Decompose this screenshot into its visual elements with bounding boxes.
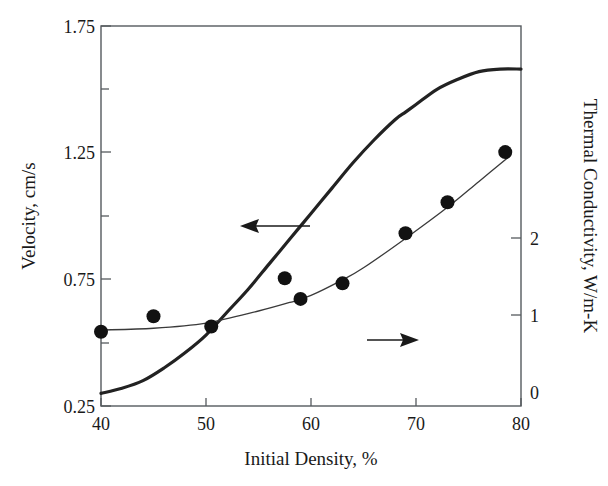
data-point xyxy=(278,271,292,285)
y2tick-label-1: 1 xyxy=(530,306,539,326)
left-axis-ticks xyxy=(101,26,111,406)
xtick-label-80: 80 xyxy=(512,414,530,434)
xtick-label-50: 50 xyxy=(197,414,215,434)
data-point xyxy=(498,145,512,159)
x-axis-tick-labels: 40 50 60 70 80 xyxy=(92,414,530,434)
y2tick-label-2: 2 xyxy=(530,229,539,249)
y2-axis-title: Thermal Conductivity, W/m-K xyxy=(580,99,601,334)
x-axis-title: Initial Density, % xyxy=(244,448,377,469)
y2tick-label-0: 0 xyxy=(530,383,539,403)
data-point xyxy=(94,325,108,339)
data-point xyxy=(399,226,413,240)
right-axis-ticks xyxy=(511,238,521,315)
series-layer xyxy=(94,69,521,393)
xtick-label-70: 70 xyxy=(407,414,425,434)
chart-figure: 1.75 1.25 0.75 0.25 Velocity, cm/s 2 1 0… xyxy=(0,0,608,486)
xtick-label-40: 40 xyxy=(92,414,110,434)
data-point xyxy=(204,320,218,334)
data-point xyxy=(336,276,350,290)
thermal-conductivity-curve xyxy=(101,156,511,330)
right-axis-tick-labels: 2 1 0 xyxy=(530,229,539,403)
ytick-label-1-75: 1.75 xyxy=(64,17,96,37)
data-point xyxy=(147,309,161,323)
left-axis-tick-labels: 1.75 1.25 0.75 0.25 xyxy=(64,17,96,417)
ytick-label-0-25: 0.25 xyxy=(64,397,96,417)
xtick-label-60: 60 xyxy=(302,414,320,434)
plot-frame xyxy=(101,26,521,406)
x-axis-ticks xyxy=(101,398,521,406)
right-arrow-annotation xyxy=(367,333,419,347)
y-axis-title: Velocity, cm/s xyxy=(18,162,39,269)
data-point xyxy=(294,292,308,306)
thermal-conductivity-markers xyxy=(94,145,512,339)
ytick-label-1-25: 1.25 xyxy=(64,143,96,163)
figure-container: 1.75 1.25 0.75 0.25 Velocity, cm/s 2 1 0… xyxy=(0,0,608,486)
left-arrow-annotation xyxy=(240,219,310,233)
velocity-curve xyxy=(101,69,521,393)
data-point xyxy=(441,195,455,209)
ytick-label-0-75: 0.75 xyxy=(64,270,96,290)
